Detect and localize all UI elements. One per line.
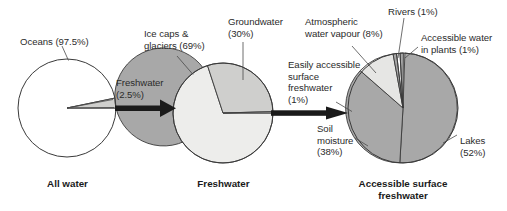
easily-accessible-surface-freshwater-label: Easily accessible surface freshwater (1%… (288, 59, 360, 105)
accessible-water-in-plants-label: Accessible water in plants (1%) (421, 32, 492, 55)
groundwater-label: Groundwater (30%) (228, 16, 283, 39)
soil-moisture-label: Soil moisture (38%) (317, 123, 353, 158)
water-distribution-figure: Oceans (97.5%) Freshwater (2.5%) Ice cap… (0, 0, 507, 211)
atmospheric-water-vapour-label: Atmospheric water vapour (8%) (305, 16, 383, 39)
leader-freshwater-2 (67, 108, 114, 109)
lakes-label: Lakes (52%) (460, 135, 485, 158)
freshwater-pie (173, 63, 273, 163)
leader-oceans (62, 46, 69, 61)
slice-lakes (400, 53, 458, 163)
leader-rivers (398, 18, 404, 58)
caption-all-water: All water (0, 178, 135, 190)
caption-accessible-surface-freshwater: Accessible surface freshwater (333, 178, 473, 202)
caption-freshwater: Freshwater (156, 178, 291, 190)
rivers-label: Rivers (1%) (388, 6, 438, 18)
ice-caps-glaciers-label: Ice caps & glaciers (69%) (144, 28, 205, 51)
arrow-freshwater-to-accessible (271, 107, 348, 120)
freshwater-label: Freshwater (2.5%) (116, 77, 163, 100)
accessible-surface-freshwater-pie (346, 53, 458, 163)
oceans-label: Oceans (97.5%) (20, 36, 89, 48)
